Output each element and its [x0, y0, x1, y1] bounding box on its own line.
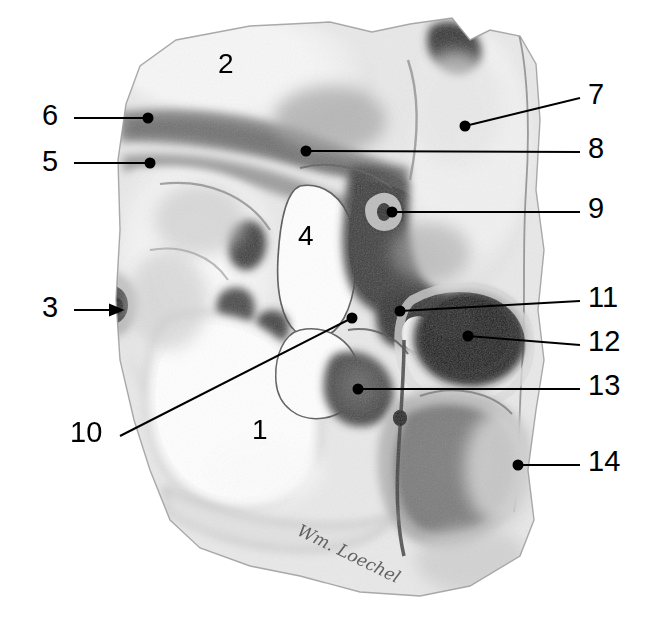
- label-6: 6: [42, 101, 58, 130]
- anatomical-figure: 1234567891011121314 Wm. Loechel: [0, 0, 656, 644]
- label-8-leader-line: [306, 151, 580, 152]
- label-10: 10: [70, 418, 102, 447]
- label-8: 8: [588, 134, 604, 163]
- label-5-leader-dot: [146, 159, 155, 168]
- label-7: 7: [588, 80, 604, 109]
- label-8-leader-dot: [302, 147, 311, 156]
- label-11: 11: [588, 283, 618, 312]
- label-13-leader-dot: [354, 385, 363, 394]
- label-11-leader-dot: [396, 307, 405, 316]
- label-14: 14: [588, 447, 620, 476]
- label-13: 13: [588, 371, 620, 400]
- label-9-leader-dot: [388, 208, 397, 217]
- label-12: 12: [588, 327, 620, 356]
- label-1: 1: [252, 416, 268, 444]
- label-6-leader-dot: [144, 114, 153, 123]
- label-3: 3: [42, 293, 58, 322]
- label-14-leader-dot: [514, 461, 523, 470]
- label-12-leader-dot: [464, 332, 473, 341]
- label-10-leader-dot: [348, 314, 357, 323]
- label-5: 5: [42, 147, 58, 176]
- label-7-leader-dot: [461, 122, 470, 131]
- label-4: 4: [298, 222, 314, 250]
- label-2: 2: [218, 50, 234, 78]
- label-9: 9: [588, 194, 604, 223]
